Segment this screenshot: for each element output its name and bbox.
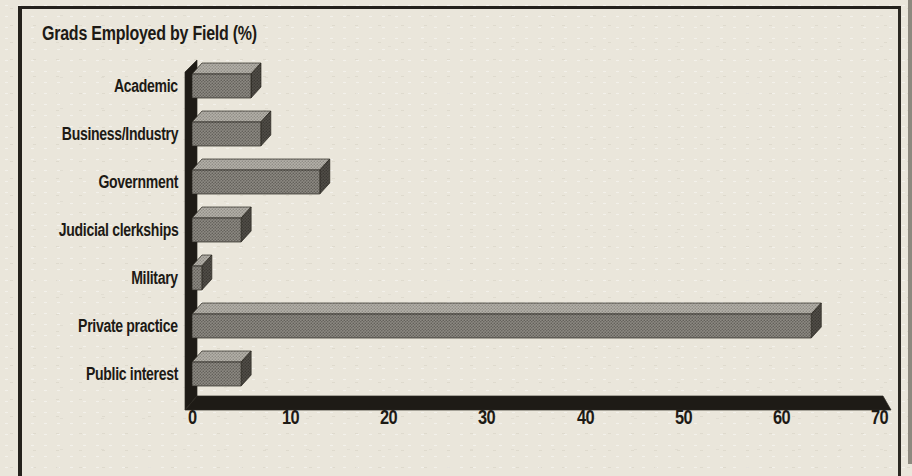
bar-public-interest: [192, 351, 251, 386]
category-label: Military: [0, 266, 178, 290]
bar-front-face: [192, 362, 241, 386]
bar-private-practice: [192, 303, 821, 338]
x-axis-tick-label: 0: [162, 404, 222, 430]
category-label-text: Military: [131, 266, 178, 290]
bar-top-face: [192, 159, 330, 170]
bar-top-face: [192, 111, 271, 122]
x-axis-tick-label-text: 0: [188, 404, 197, 430]
bar-academic: [192, 63, 261, 98]
x-axis-tick-label-text: 30: [478, 404, 495, 430]
x-axis-tick-label: 60: [752, 404, 812, 430]
bar-business-industry: [192, 111, 271, 146]
x-axis-tick-label-text: 10: [282, 404, 299, 430]
bar-front-face: [192, 122, 261, 146]
bar-judicial-clerkships: [192, 207, 251, 242]
category-label-text: Academic: [114, 74, 178, 98]
category-label: Public interest: [0, 362, 178, 386]
x-axis-tick-label: 20: [359, 404, 419, 430]
category-label: Private practice: [0, 314, 178, 338]
x-axis-tick-label: 10: [260, 404, 320, 430]
category-label-text: Private practice: [78, 314, 178, 338]
bar-top-face: [192, 303, 821, 314]
category-label-text: Government: [98, 170, 178, 194]
bar-front-face: [192, 218, 241, 242]
x-axis-tick-label-text: 60: [773, 404, 790, 430]
x-axis-tick-label-text: 70: [871, 404, 888, 430]
category-label: Business/Industry: [0, 122, 178, 146]
bar-government: [192, 159, 330, 194]
x-axis-tick-label: 40: [555, 404, 615, 430]
x-axis-tick-label-text: 40: [576, 404, 593, 430]
category-label: Government: [0, 170, 178, 194]
category-label-text: Judicial clerkships: [58, 218, 178, 242]
x-axis-tick-label: 30: [457, 404, 517, 430]
category-label: Academic: [0, 74, 178, 98]
x-axis-tick-label-text: 50: [675, 404, 692, 430]
x-axis-tick-label: 50: [654, 404, 714, 430]
bar-front-face: [192, 170, 320, 194]
category-label: Judicial clerkships: [0, 218, 178, 242]
category-label-text: Business/Industry: [62, 122, 178, 146]
bar-front-face: [192, 314, 811, 338]
bar-top-face: [192, 63, 261, 74]
x-axis-tick-label: 70: [850, 404, 910, 430]
category-label-text: Public interest: [86, 362, 178, 386]
bar-front-face: [192, 266, 202, 290]
x-axis-tick-label-text: 20: [380, 404, 397, 430]
bar-front-face: [192, 74, 251, 98]
